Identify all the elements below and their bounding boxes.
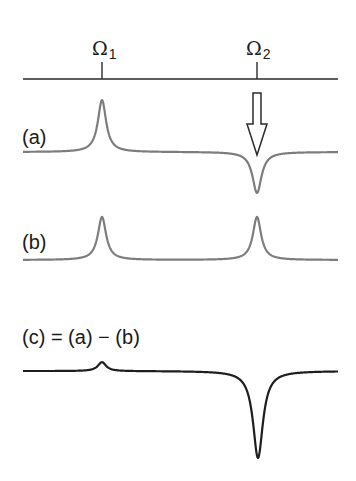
trace-c-label: (c) = (a) − (b) (22, 326, 140, 348)
down-arrow-icon (247, 93, 267, 155)
spectrum-figure: Ω1 Ω2 (a) (b) (c) = (a) − (b) (0, 0, 356, 481)
trace-b (23, 217, 338, 260)
trace-a-label: (a) (22, 126, 46, 148)
omega2-label: Ω2 (246, 37, 271, 62)
trace-a (23, 100, 338, 193)
trace-c (23, 362, 338, 458)
trace-b-label: (b) (22, 231, 46, 253)
omega1-label: Ω1 (92, 37, 117, 62)
